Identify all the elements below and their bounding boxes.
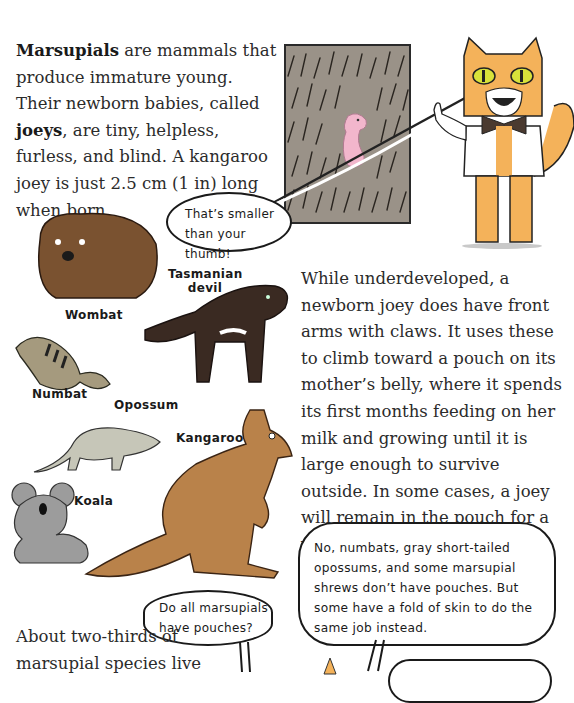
cat-ear-partial <box>322 656 342 676</box>
koala-illustration <box>10 475 110 565</box>
cat-teacher-illustration <box>424 36 574 251</box>
speech-bubble-partial <box>388 659 552 703</box>
kangaroo-illustration <box>84 404 294 584</box>
label-numbat: Numbat <box>32 387 87 401</box>
tasmanian-devil-illustration <box>140 275 290 385</box>
fur-panel-illustration <box>284 44 411 224</box>
joey-icon <box>334 110 374 170</box>
bubble-tail-question <box>236 642 266 672</box>
speech-bubble-answer: No, numbats, gray short-tailed opossums,… <box>298 522 556 646</box>
speech-bubble-thumb: That’s smaller than your thumb! <box>166 192 292 252</box>
distribution-paragraph: About two-thirds of marsupial species li… <box>16 624 206 677</box>
pointer-stick <box>0 0 300 220</box>
development-paragraph: While underdeveloped, a newborn joey doe… <box>301 266 571 559</box>
